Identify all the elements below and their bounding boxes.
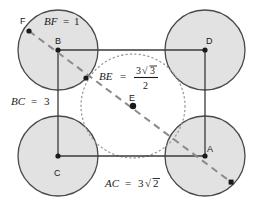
svg-text:3: 3 bbox=[44, 95, 50, 107]
point-be-intersection bbox=[83, 75, 88, 80]
label-ac: AC = 3 √ 2 bbox=[104, 177, 160, 189]
point-a bbox=[202, 153, 207, 158]
vertex-label-a: A bbox=[207, 144, 213, 154]
vertex-label-f: F bbox=[20, 16, 26, 26]
svg-text:=: = bbox=[63, 15, 69, 27]
point-b bbox=[55, 47, 60, 52]
vertex-label-c: C bbox=[54, 168, 61, 178]
point-d bbox=[202, 47, 207, 52]
svg-text:BC: BC bbox=[11, 95, 26, 107]
point-c bbox=[55, 153, 60, 158]
svg-text:=: = bbox=[31, 95, 37, 107]
point-f bbox=[26, 28, 31, 33]
svg-text:AC: AC bbox=[104, 177, 120, 189]
svg-text:3: 3 bbox=[150, 65, 155, 76]
svg-text:3: 3 bbox=[138, 177, 144, 189]
vertex-label-e: E bbox=[129, 93, 135, 103]
svg-text:=: = bbox=[125, 177, 131, 189]
svg-text:√: √ bbox=[145, 177, 152, 189]
label-bc: BC = 3 bbox=[11, 95, 50, 107]
svg-text:1: 1 bbox=[74, 15, 80, 27]
vertex-label-b: B bbox=[55, 36, 61, 46]
geometry-diagram: F B D A C E BF = 1 BC = 3 AC = 3 √ 2 BE bbox=[0, 0, 253, 207]
label-be: BE = 3 √ 3 2 bbox=[99, 65, 158, 91]
point-g-outer bbox=[229, 180, 234, 185]
svg-text:3: 3 bbox=[136, 65, 141, 76]
svg-text:BF: BF bbox=[44, 15, 58, 27]
svg-text:BE: BE bbox=[99, 70, 113, 82]
svg-text:=: = bbox=[120, 70, 126, 82]
point-e bbox=[130, 103, 136, 109]
svg-text:2: 2 bbox=[143, 80, 148, 91]
geometry-svg: F B D A C E BF = 1 BC = 3 AC = 3 √ 2 BE bbox=[0, 0, 253, 207]
vertex-label-d: D bbox=[206, 36, 213, 46]
svg-text:√: √ bbox=[142, 65, 148, 76]
